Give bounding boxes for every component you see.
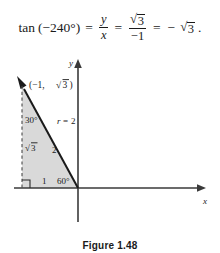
radicand-result-value: 3 — [187, 22, 195, 36]
point-label-radicand: 3 — [63, 80, 68, 90]
radius-variable-label: r — [57, 116, 61, 126]
figure-diagram: y x (−1, √ 3 ) 30° r = 2 √ 3 2 1 60° — [0, 52, 220, 237]
radicand-value: 3 — [137, 14, 145, 28]
hypotenuse-length-label: 2 — [52, 145, 57, 155]
coordinate-plane-svg: y x (−1, √ 3 ) 30° r = 2 √ 3 2 1 60° — [0, 52, 220, 237]
fraction-denominator-neg1: −1 — [129, 28, 146, 43]
radical-sign-icon: √ — [130, 12, 137, 25]
angle-60-label: 60° — [57, 176, 70, 186]
fraction-y-over-x: y x — [99, 13, 109, 42]
radius-equals-sign: = — [63, 116, 68, 126]
radical-sign-result-icon: √ — [180, 20, 187, 33]
x-axis-label: x — [202, 196, 207, 206]
fraction-denominator-x: x — [99, 27, 109, 42]
angle-30-label: 30° — [25, 115, 38, 125]
radius-label: r = 2 — [57, 116, 76, 126]
period-punctuation: . — [198, 21, 201, 35]
fraction-numerator-y: y — [99, 13, 109, 26]
point-label-open: (−1, — [29, 80, 45, 91]
equation-expression: tan(−240°) = y x = √ 3 −1 = −√3. — [0, 12, 220, 43]
horizontal-side-length-label: 1 — [42, 176, 47, 186]
minus-sign: − — [168, 21, 176, 35]
y-axis-label: y — [68, 58, 73, 68]
point-label-close: ) — [70, 80, 73, 91]
equals-sign-1: = — [85, 21, 93, 35]
equals-sign-2: = — [114, 21, 122, 35]
equation-row: tan(−240°) = y x = √ 3 −1 = −√3. — [19, 12, 202, 43]
tangent-function-name: tan — [19, 21, 36, 35]
radical-sqrt3-result: √3 — [180, 20, 195, 35]
radius-value-label: 2 — [71, 116, 76, 126]
fraction-sqrt3-over-neg1: √ 3 −1 — [128, 12, 147, 43]
vertical-side-radical-sign-icon: √ — [25, 143, 30, 153]
x-axis-arrowhead-icon — [197, 184, 206, 192]
tangent-argument: (−240°) — [38, 21, 80, 35]
radical-sqrt3-numerator: √ 3 — [130, 12, 145, 27]
equals-sign-3: = — [153, 21, 161, 35]
fraction-numerator-sqrt3: √ 3 — [128, 12, 147, 27]
point-label-radical-sign-icon: √ — [56, 80, 62, 90]
vertical-side-radicand: 3 — [31, 143, 36, 153]
y-axis-arrowhead-icon — [74, 59, 82, 68]
point-coordinate-label: (−1, √ 3 ) — [29, 80, 73, 91]
figure-caption: Figure 1.48 — [0, 240, 220, 251]
